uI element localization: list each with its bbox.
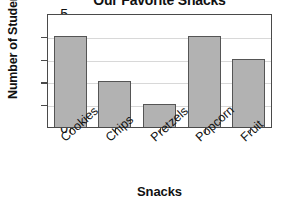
plot-area [47,14,272,128]
chart-title: Our Favorite Snacks [47,0,272,8]
x-axis-tick-labels: CookiesChipsPretzelsPopcornFruit [47,128,272,184]
y-axis-title: Number of Students [6,0,20,106]
bar-series [48,15,271,127]
bar-slot [93,15,138,127]
bar-fruit [232,59,265,127]
x-axis-title: Snacks [47,184,272,199]
bar-chart: Our Favorite Snacks Number of Students 5… [0,0,283,205]
